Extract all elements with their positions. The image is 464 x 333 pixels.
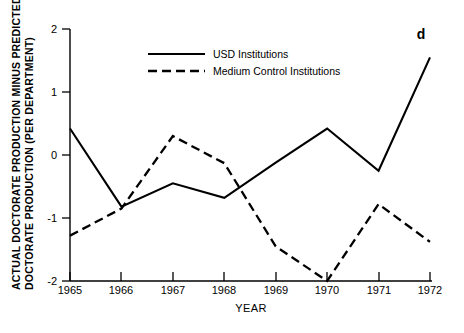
chart-legend: USD Institutions Medium Control Institut…: [148, 48, 340, 77]
series-line-usd-institutions: [70, 57, 430, 206]
series-line-medium-control-institutions: [70, 136, 430, 281]
y-tick-label-0: 2: [51, 23, 57, 35]
x-tick-label-1965: 1965: [58, 284, 82, 296]
panel-label: d: [417, 26, 426, 42]
x-tick-label-1969: 1969: [264, 284, 288, 296]
y-tick-label-1: 1: [51, 86, 57, 98]
x-axis-tick-labels: 1965 1966 1967 1968 1969 1970 1971 1972: [58, 284, 442, 296]
y-tick-label-2: 0: [51, 149, 57, 161]
legend-label-medium-control-institutions: Medium Control Institutions: [213, 65, 340, 77]
x-tick-label-1971: 1971: [367, 284, 391, 296]
y-tick-label-3: -1: [47, 212, 57, 224]
x-tick-label-1968: 1968: [212, 284, 236, 296]
y-axis-label: ACTUAL DOCTORATE PRODUCTION MINUS PREDIC…: [10, 0, 35, 290]
chart-figure: ACTUAL DOCTORATE PRODUCTION MINUS PREDIC…: [0, 0, 464, 333]
legend-label-usd-institutions: USD Institutions: [213, 48, 288, 60]
x-tick-label-1966: 1966: [109, 284, 133, 296]
x-axis-title: YEAR: [235, 302, 267, 314]
x-tick-label-1972: 1972: [418, 284, 442, 296]
line-chart-svg: ACTUAL DOCTORATE PRODUCTION MINUS PREDIC…: [0, 0, 464, 333]
y-axis-label-line2: DOCTORATE PRODUCTION (PER DEPARTMENT): [23, 37, 35, 290]
y-axis-tick-labels: 2 1 0 -1 -2: [47, 23, 57, 287]
y-axis-label-line1: ACTUAL DOCTORATE PRODUCTION MINUS PREDIC…: [10, 0, 22, 290]
y-tick-label-4: -2: [47, 275, 57, 287]
x-tick-label-1970: 1970: [315, 284, 339, 296]
y-axis-ticks: [62, 29, 70, 281]
x-tick-label-1967: 1967: [161, 284, 185, 296]
x-axis-ticks: [70, 272, 430, 281]
